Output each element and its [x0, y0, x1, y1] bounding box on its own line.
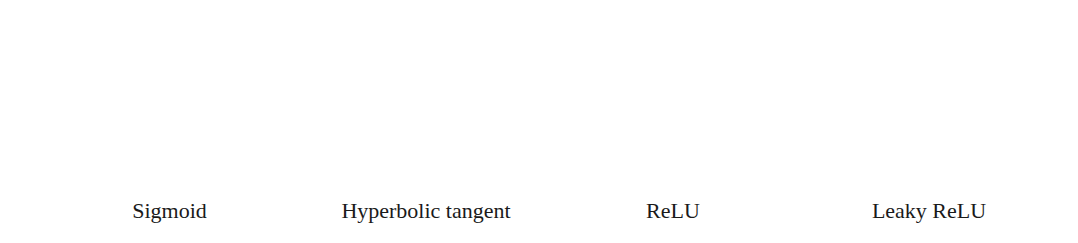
- panel-leaky-relu: Leaky ReLU: [0, 0, 1078, 243]
- caption-leaky-relu: Leaky ReLU: [816, 198, 1042, 224]
